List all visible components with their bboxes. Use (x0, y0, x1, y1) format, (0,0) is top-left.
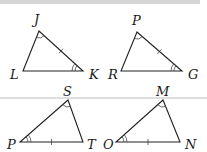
double-angle-arc-icon (122, 137, 124, 142)
triangles-layer: JLKPRGSPTMON (6, 12, 198, 152)
vertex-label-k: K (88, 67, 100, 82)
triangle-jlk: JLK (9, 12, 100, 82)
vertex-label-t: T (87, 137, 97, 152)
vertex-label-l: L (9, 67, 19, 82)
vertex-label-p: P (131, 13, 141, 28)
double-angle-arc-icon (124, 135, 127, 142)
triangle-spt: SPT (6, 84, 97, 152)
vertex-label-g: G (188, 67, 198, 82)
double-angle-arc-icon (72, 64, 75, 71)
double-angle-arc-icon (171, 64, 174, 71)
vertex-label-n: N (184, 137, 197, 152)
double-angle-arc-icon (75, 66, 77, 71)
triangle-prg: PRG (107, 13, 198, 82)
triangle-outline (116, 100, 180, 142)
vertex-label-j: J (31, 12, 40, 27)
vertex-label-m: M (155, 84, 170, 99)
double-angle-arc-icon (174, 66, 176, 71)
vertex-label-o: O (103, 137, 114, 152)
double-angle-arc-icon (28, 135, 31, 142)
triangle-mon: MON (103, 84, 197, 152)
vertex-label-p: P (6, 137, 16, 152)
double-angle-arc-icon (26, 137, 28, 142)
vertex-label-s: S (63, 84, 72, 99)
vertex-label-r: R (107, 67, 118, 82)
triangle-congruence-diagram: JLKPRGSPTMON (0, 0, 207, 152)
